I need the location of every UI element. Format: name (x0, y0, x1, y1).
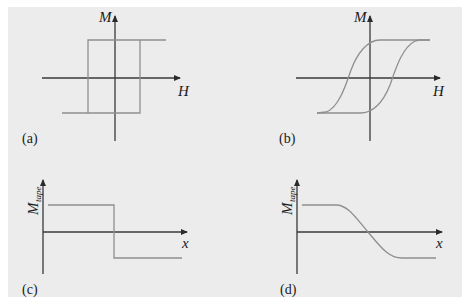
panel-label: (c) (22, 282, 38, 298)
y-axis-label: M (98, 9, 113, 25)
x-axis-label: x (181, 235, 189, 251)
svg-text:M: M (25, 201, 41, 216)
y-axis-label: M tape (25, 186, 43, 216)
x-axis-label: H (177, 83, 190, 99)
panel-a: M H (a) (22, 9, 190, 147)
x-axis-label: H (432, 83, 445, 99)
x-axis-label: x (435, 235, 443, 251)
ascending-branch-curve (317, 40, 430, 113)
svg-text:M: M (279, 201, 295, 216)
descending-branch-curve (317, 40, 430, 113)
svg-text:tape: tape (33, 186, 43, 202)
panel-b: M H (b) (279, 9, 445, 147)
figure: M H (a) M H (b) M tape x (c) M tape x (d (0, 0, 468, 305)
panel-label: (d) (280, 282, 297, 298)
panel-label: (b) (279, 131, 296, 147)
svg-text:tape: tape (287, 186, 297, 202)
panel-d: M tape x (d) (279, 180, 443, 298)
panel-label: (a) (22, 131, 38, 147)
y-axis-label: M tape (279, 186, 297, 216)
square-loop-curve (62, 40, 166, 113)
panel-c: M tape x (c) (22, 180, 189, 298)
y-axis-label: M (353, 9, 368, 25)
